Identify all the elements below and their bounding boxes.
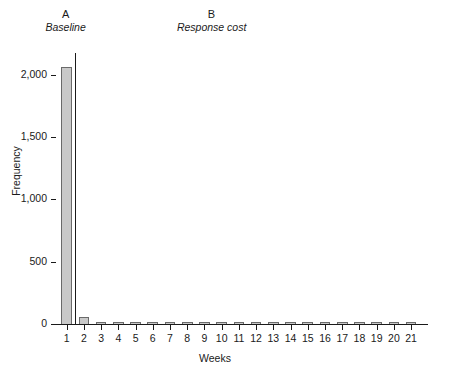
y-axis-tick: 1,000 [51,199,56,200]
x-axis-tick [153,325,154,330]
x-axis-tick [204,325,205,330]
x-axis-tick [256,325,257,330]
y-axis-tick-label: 0 [41,317,47,329]
x-axis-tick [67,325,68,330]
y-axis-tick-label: 1,000 [21,192,47,204]
x-axis-tick-label: 21 [401,332,421,344]
x-axis-tick [239,325,240,330]
plot-area: 05001,0001,5002,000 12345678910111213141… [56,50,428,324]
y-axis-tick: 2,000 [51,75,56,76]
y-axis-tick-label: 1,500 [21,130,47,142]
x-axis-tick [101,325,102,330]
x-axis-tick [136,325,137,330]
y-axis-tick-label: 2,000 [21,68,47,80]
bar [61,67,72,324]
x-axis-line [56,324,428,325]
x-axis-tick [342,325,343,330]
phase-divider-line [75,53,76,324]
bar [79,317,90,324]
x-axis-tick [308,325,309,330]
y-axis-tick-label: 500 [29,255,47,267]
x-axis-tick [411,325,412,330]
x-axis-tick [222,325,223,330]
x-axis-tick [325,325,326,330]
x-axis-tick [170,325,171,330]
panel-name-b: Response cost [127,21,297,34]
panel-letter-b: B [127,8,297,21]
x-axis-tick [291,325,292,330]
x-axis-tick [118,325,119,330]
x-axis-tick [187,325,188,330]
y-axis-tick: 1,500 [51,137,56,138]
y-axis-tick: 500 [51,262,56,263]
panel-caption-b: B Response cost [127,8,297,34]
x-axis-tick [273,325,274,330]
x-axis-tick [84,325,85,330]
x-axis-tick [377,325,378,330]
x-axis-tick [394,325,395,330]
x-axis-title: Weeks [165,352,265,364]
bar-chart-figure: A Baseline B Response cost Frequency Wee… [0,0,450,381]
x-axis-tick [359,325,360,330]
